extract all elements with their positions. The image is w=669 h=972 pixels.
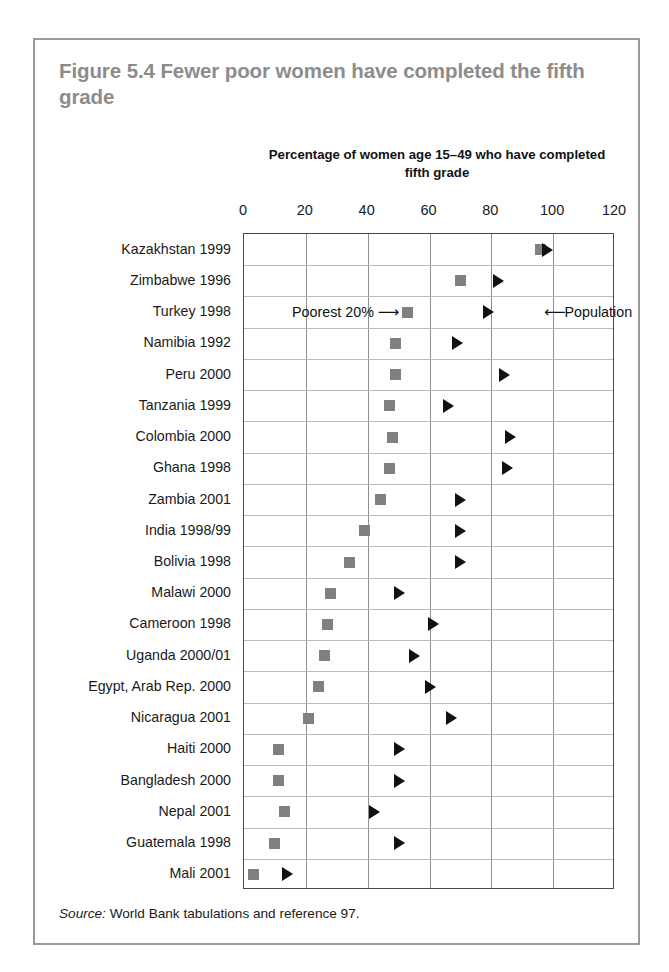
gridline-horizontal — [244, 796, 613, 797]
x-tick-label: 20 — [283, 202, 327, 218]
source-text: World Bank tabulations and reference 97. — [106, 906, 360, 921]
data-marker-population — [282, 867, 293, 881]
data-marker-poorest — [375, 494, 386, 505]
gridline-horizontal — [244, 453, 613, 454]
data-marker-population — [493, 274, 504, 288]
gridline-horizontal — [244, 859, 613, 860]
category-label: Turkey 1998 — [21, 304, 231, 318]
gridline-horizontal — [244, 484, 613, 485]
category-label: Nepal 2001 — [21, 804, 231, 818]
category-label: Ghana 1998 — [21, 460, 231, 474]
data-marker-population — [443, 399, 454, 413]
category-label: Guatemala 1998 — [21, 835, 231, 849]
gridline-horizontal — [244, 515, 613, 516]
data-marker-poorest — [402, 307, 413, 318]
data-marker-poorest — [322, 619, 333, 630]
gridline-horizontal — [244, 390, 613, 391]
gridline-vertical — [368, 234, 369, 888]
gridline-horizontal — [244, 734, 613, 735]
gridline-horizontal — [244, 421, 613, 422]
annotation-population-label: Population — [565, 304, 633, 320]
data-marker-population — [452, 336, 463, 350]
data-marker-poorest — [269, 838, 280, 849]
data-marker-poorest — [319, 650, 330, 661]
source-label: Source: — [59, 906, 106, 921]
data-marker-population — [394, 774, 405, 788]
x-tick-label: 120 — [592, 202, 636, 218]
data-marker-population — [542, 243, 553, 257]
data-marker-population — [455, 555, 466, 569]
data-marker-poorest — [279, 806, 290, 817]
data-marker-poorest — [359, 525, 370, 536]
gridline-horizontal — [244, 765, 613, 766]
data-marker-population — [455, 493, 466, 507]
figure-card: Figure 5.4 Fewer poor women have complet… — [33, 38, 640, 945]
data-marker-poorest — [273, 744, 284, 755]
data-marker-population — [394, 742, 405, 756]
data-marker-poorest — [344, 557, 355, 568]
category-label: Zambia 2001 — [21, 492, 231, 506]
data-marker-population — [425, 680, 436, 694]
x-tick-label: 80 — [468, 202, 512, 218]
data-marker-population — [369, 805, 380, 819]
x-tick-label: 100 — [530, 202, 574, 218]
data-marker-population — [409, 649, 420, 663]
data-marker-population — [505, 430, 516, 444]
arrow-right-icon: ⟶ — [374, 303, 398, 321]
category-label: Kazakhstan 1999 — [21, 242, 231, 256]
data-marker-poorest — [384, 463, 395, 474]
gridline-vertical — [491, 234, 492, 888]
data-marker-population — [499, 368, 510, 382]
category-label: Colombia 2000 — [21, 429, 231, 443]
x-tick-label: 40 — [345, 202, 389, 218]
data-marker-population — [455, 524, 466, 538]
category-label: Tanzania 1999 — [21, 398, 231, 412]
gridline-horizontal — [244, 671, 613, 672]
data-marker-population — [394, 586, 405, 600]
data-marker-poorest — [455, 275, 466, 286]
category-label: Bangladesh 2000 — [21, 773, 231, 787]
annotation-poorest-label: Poorest 20% — [292, 304, 374, 320]
category-label: Uganda 2000/01 — [21, 648, 231, 662]
annotation-population: ⟵Population — [544, 305, 632, 320]
data-marker-poorest — [313, 681, 324, 692]
gridline-horizontal — [244, 828, 613, 829]
data-marker-population — [446, 711, 457, 725]
category-label: Namibia 1992 — [21, 335, 231, 349]
arrow-left-icon: ⟵ — [544, 303, 565, 321]
source-note: Source: World Bank tabulations and refer… — [59, 906, 360, 921]
x-tick-label: 0 — [221, 202, 265, 218]
gridline-vertical — [306, 234, 307, 888]
gridline-horizontal — [244, 703, 613, 704]
gridline-horizontal — [244, 609, 613, 610]
gridline-horizontal — [244, 328, 613, 329]
category-label: Malawi 2000 — [21, 585, 231, 599]
category-label: Bolivia 1998 — [21, 554, 231, 568]
category-label: India 1998/99 — [21, 523, 231, 537]
annotation-poorest: Poorest 20% ⟶ — [292, 305, 398, 320]
category-label: Egypt, Arab Rep. 2000 — [21, 679, 231, 693]
x-tick-label: 60 — [407, 202, 451, 218]
gridline-vertical — [430, 234, 431, 888]
category-label: Peru 2000 — [21, 367, 231, 381]
data-marker-poorest — [303, 713, 314, 724]
data-marker-poorest — [390, 338, 401, 349]
data-marker-population — [483, 305, 494, 319]
data-marker-population — [394, 836, 405, 850]
chart-plot: Poorest 20% ⟶ ⟵Population 02040608010012… — [35, 40, 642, 947]
category-label: Haiti 2000 — [21, 741, 231, 755]
gridline-horizontal — [244, 296, 613, 297]
data-marker-poorest — [325, 588, 336, 599]
gridline-horizontal — [244, 578, 613, 579]
data-marker-poorest — [387, 432, 398, 443]
gridline-vertical — [553, 234, 554, 888]
gridline-horizontal — [244, 546, 613, 547]
gridline-horizontal — [244, 265, 613, 266]
data-marker-poorest — [384, 400, 395, 411]
gridline-horizontal — [244, 640, 613, 641]
category-label: Nicaragua 2001 — [21, 710, 231, 724]
data-marker-poorest — [390, 369, 401, 380]
data-marker-population — [428, 617, 439, 631]
category-label: Zimbabwe 1996 — [21, 273, 231, 287]
gridline-horizontal — [244, 359, 613, 360]
